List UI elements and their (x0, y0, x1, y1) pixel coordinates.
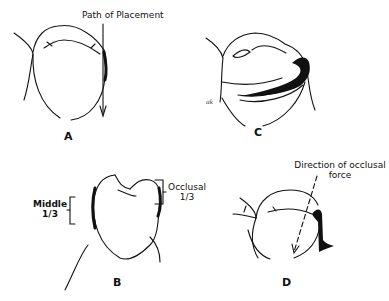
panel-a-tooth-drawing (14, 24, 106, 120)
panel-label-d: D (282, 276, 291, 289)
panel-label-a: A (64, 130, 73, 143)
panel-b-tooth-drawing (65, 175, 166, 290)
panel-label-c: C (254, 126, 262, 139)
artist-signature: ak (206, 98, 214, 105)
panel-label-b: B (113, 276, 121, 289)
direction-of-force-label: Direction of occlusal force (290, 160, 389, 180)
middle-third-label: Middle 1/3 (32, 199, 68, 219)
panel-d-tooth-drawing (233, 176, 320, 259)
occlusal-third-label: Occlusal 1/3 (167, 182, 207, 202)
dental-diagram: ak (0, 0, 389, 301)
path-of-placement-label: Path of Placement (82, 10, 164, 20)
